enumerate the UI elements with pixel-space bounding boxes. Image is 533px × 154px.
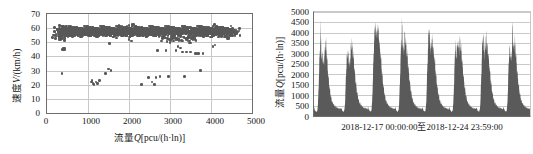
scatter-point [227,36,230,39]
area-ytick-5000: 5000 [281,8,309,17]
area-ytick-0: 0 [281,113,309,122]
scatter-point [158,36,161,39]
scatter-xtick-3000: 3000 [157,117,189,126]
scatter-point [63,48,66,51]
scatter-point [153,83,156,86]
flow-area-path [314,12,530,116]
scatter-point [130,40,133,43]
scatter-point [96,82,99,85]
scatter-xtick-0: 0 [34,117,58,126]
speed-flow-scatter-chart: 速度V/(km/h) 70 60 50 40 30 20 10 0 0 1000… [0,0,265,154]
scatter-point [197,52,200,55]
scatter-x-axis-title-unit: [pcu/(h·ln)] [141,133,185,143]
scatter-point [210,36,213,39]
scatter-point [202,52,205,55]
scatter-point [115,37,118,40]
area-ytick-1000: 1000 [281,92,309,101]
scatter-point [231,32,234,35]
scatter-point [98,79,101,82]
scatter-ytick-40: 40 [18,52,40,61]
scatter-point [214,44,217,47]
scatter-point [63,39,66,42]
scatter-point [221,26,224,29]
scatter-point [183,75,186,78]
scatter-point [185,51,188,54]
scatter-point [104,72,107,75]
scatter-point [79,36,82,39]
scatter-xtick-4000: 4000 [199,117,231,126]
flow-time-series-chart: 流量Q[pcu/(h·ln)] 5000 4500 4000 3500 3000… [265,0,533,154]
scatter-point [60,37,63,40]
scatter-point [141,34,144,37]
scatter-gridline-h [47,71,252,72]
figure-container: 速度V/(km/h) 70 60 50 40 30 20 10 0 0 1000… [0,0,533,154]
scatter-gridline-h [47,85,252,86]
scatter-point [89,34,92,37]
scatter-ytick-50: 50 [18,38,40,47]
scatter-gridline-h [47,56,252,57]
scatter-ytick-20: 20 [18,81,40,90]
scatter-point [140,83,143,86]
scatter-ytick-60: 60 [18,24,40,33]
scatter-point [110,69,113,72]
scatter-point [159,75,162,78]
scatter-point [217,36,220,39]
scatter-point [147,76,150,79]
scatter-point [181,51,184,54]
scatter-ytick-30: 30 [18,67,40,76]
scatter-point [155,76,158,79]
scatter-point [129,34,132,37]
area-ytick-2500: 2500 [281,60,309,69]
scatter-x-axis-title-prefix: 流量 [114,133,134,143]
scatter-gridline-h [47,99,252,100]
scatter-point [180,39,183,42]
area-x-axis-caption: 2018-12-17 00:00:00至2018-12-24 23:59:00 [313,122,531,132]
scatter-point [156,49,159,52]
scatter-point [225,27,228,30]
scatter-ytick-10: 10 [18,95,40,104]
scatter-xtick-2000: 2000 [116,117,148,126]
scatter-x-axis-title: 流量Q[pcu/(h·ln)] [46,133,253,144]
scatter-point [165,27,168,30]
scatter-point [54,37,57,40]
area-ytick-2000: 2000 [281,71,309,80]
scatter-point [175,49,178,52]
area-ytick-3000: 3000 [281,50,309,59]
scatter-point [186,37,189,40]
scatter-point [179,47,182,50]
scatter-ytick-70: 70 [18,10,40,19]
scatter-point [95,29,98,32]
area-ytick-4500: 4500 [281,18,309,27]
scatter-point [224,35,227,38]
scatter-point [199,69,202,72]
scatter-plot-area [46,13,253,114]
scatter-xtick-1000: 1000 [75,117,107,126]
scatter-point [61,72,64,75]
scatter-point [166,40,169,43]
area-ytick-1500: 1500 [281,81,309,90]
scatter-point [165,49,168,52]
scatter-x-axis-title-symbol: Q [134,133,141,143]
scatter-point [167,75,170,78]
scatter-point [125,34,128,37]
scatter-point [238,30,241,33]
area-ytick-4000: 4000 [281,29,309,38]
area-plot-area [313,11,531,117]
scatter-point [193,36,196,39]
scatter-point [145,34,148,37]
area-ytick-500: 500 [281,102,309,111]
scatter-point [108,42,111,45]
scatter-point [155,35,158,38]
scatter-point [239,34,242,37]
scatter-point [64,34,67,37]
scatter-point [189,51,192,54]
scatter-gridline-h [47,42,252,43]
area-ytick-3500: 3500 [281,39,309,48]
